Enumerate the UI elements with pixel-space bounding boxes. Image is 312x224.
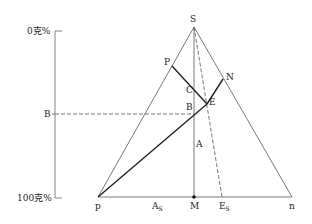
label-n-upper: N [226, 73, 234, 82]
label-a: A [196, 140, 203, 149]
label-p-vertex: p [95, 202, 101, 211]
label-s: S [190, 15, 196, 24]
label-c: C [186, 86, 193, 95]
label-m: M [190, 202, 199, 211]
label-es-sub: S [226, 205, 230, 212]
label-as: AS [152, 202, 163, 212]
label-p-upper: P [164, 58, 170, 67]
label-es-main: E [219, 201, 226, 211]
point-m [192, 195, 196, 199]
label-e: E [209, 98, 216, 107]
line-p-e-n [98, 104, 207, 197]
axis-bottom-label: 100克% [17, 194, 52, 203]
label-as-sub: S [159, 205, 163, 212]
left-axis [52, 31, 62, 198]
label-b: B [186, 103, 193, 112]
label-es: ES [219, 202, 230, 212]
axis-mid-label: B [44, 110, 51, 119]
label-n-vertex: n [289, 202, 295, 211]
axis-top-label: 0克% [27, 27, 50, 36]
